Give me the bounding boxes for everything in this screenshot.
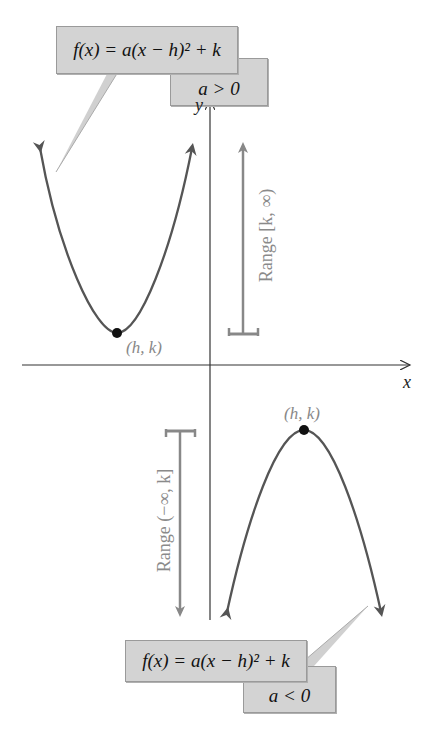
vertex-label-top: (h, k) <box>126 338 162 358</box>
range-label-bottom: Range (−∞, k] <box>154 458 175 584</box>
vertex-label-bottom: (h, k) <box>284 404 320 424</box>
range-label-top: Range [k, ∞) <box>256 181 277 291</box>
vertex-point-bottom <box>299 425 309 435</box>
range-indicator-top <box>229 147 258 336</box>
vertex-point-top <box>112 328 122 338</box>
condition-text-top: a > 0 <box>198 78 239 100</box>
top-callout-pointer <box>56 72 118 172</box>
formula-box-bottom: f(x) = a(x − h)² + k <box>125 640 307 682</box>
formula-text-bottom: f(x) = a(x − h)² + k <box>142 650 290 672</box>
y-axis-label: y <box>195 95 203 116</box>
downward-parabola <box>227 430 381 612</box>
upward-parabola <box>40 148 192 333</box>
formula-text-top: f(x) = a(x − h)² + k <box>73 39 221 61</box>
graph-canvas <box>0 0 421 732</box>
formula-box-top: f(x) = a(x − h)² + k <box>56 26 238 74</box>
condition-text-bottom: a < 0 <box>269 685 310 707</box>
x-axis-label: x <box>403 372 411 393</box>
